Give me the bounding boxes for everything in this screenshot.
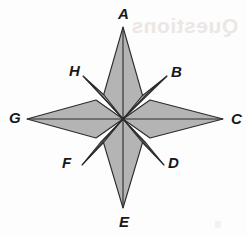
vertex-label-D: D (168, 155, 179, 170)
vertex-label-G: G (9, 110, 21, 125)
vertex-label-A: A (118, 6, 129, 21)
vertex-label-E: E (119, 214, 129, 229)
vertex-label-C: C (231, 111, 242, 126)
vertex-label-F: F (62, 155, 71, 170)
vertex-label-H: H (69, 63, 80, 78)
vertex-label-B: B (171, 64, 182, 79)
compass-rose-figure: Questions A B C D E F G H (0, 0, 247, 236)
eight-pointed-star-graphic (0, 0, 247, 236)
center-vertex-dot (121, 117, 125, 121)
